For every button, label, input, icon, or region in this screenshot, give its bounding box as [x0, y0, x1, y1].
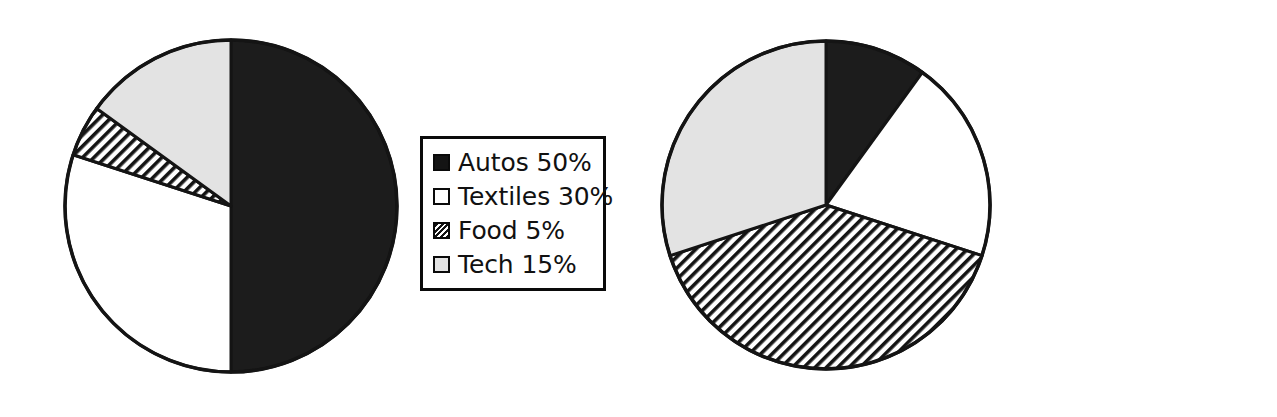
legend-label-textiles: Textiles 30%: [458, 184, 613, 209]
legend-left: Autos 50% Textiles 30% Food 5% Tech 15%: [420, 136, 606, 291]
pie-slice-autos[interactable]: [231, 40, 397, 372]
pie-chart-right: [637, 0, 1277, 417]
chart-panel-left: Autos 50% Textiles 30% Food 5% Tech 15%: [0, 0, 640, 417]
legend-swatch-autos-icon: [433, 154, 450, 171]
legend-swatch-textiles-icon: [433, 188, 450, 205]
pie-left-slice-group: [65, 40, 397, 372]
legend-label-tech: Tech 15%: [458, 252, 577, 277]
legend-swatch-tech-icon: [433, 256, 450, 273]
legend-item-autos[interactable]: Autos 50%: [433, 146, 589, 180]
chart-panel-right: Autos 10% Textiles 20% Food 40% Tech 30%: [637, 0, 1277, 417]
legend-item-textiles[interactable]: Textiles 30%: [433, 180, 589, 214]
legend-item-tech[interactable]: Tech 15%: [433, 247, 589, 281]
legend-swatch-food-icon: [433, 222, 450, 239]
pie-right-slice-group: [662, 41, 990, 369]
legend-label-food: Food 5%: [458, 218, 565, 243]
two-pie-chart-figure: Autos 50% Textiles 30% Food 5% Tech 15%: [0, 0, 1277, 417]
legend-item-food[interactable]: Food 5%: [433, 214, 589, 248]
legend-label-autos: Autos 50%: [458, 150, 592, 175]
